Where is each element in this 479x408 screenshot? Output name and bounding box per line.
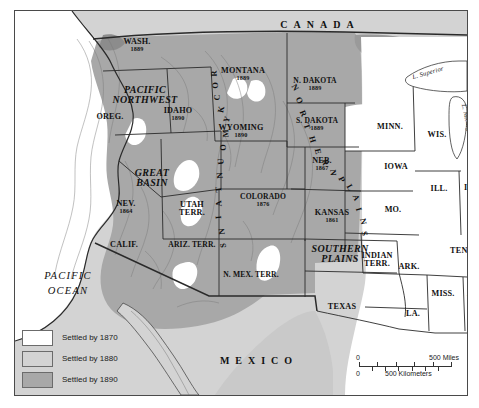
- curved-letter: S: [360, 231, 370, 237]
- label-state-wis: WIS.: [428, 131, 447, 139]
- state-name: MISS.: [431, 289, 454, 298]
- state-name: MO.: [385, 205, 402, 214]
- label-state-la: LA.: [406, 310, 420, 318]
- scale-cap-right: [451, 362, 452, 367]
- curved-letter: U: [216, 158, 226, 165]
- label-state-montana: MONTANA1889: [221, 67, 265, 82]
- label-country-canada: CANADA: [280, 20, 359, 30]
- state-name: ARK.: [398, 262, 419, 271]
- label-state-minn: MINN.: [377, 123, 403, 131]
- scale-tick-miles: [433, 362, 434, 366]
- curved-letter: C: [212, 94, 222, 101]
- state-name-line2: TERR.: [364, 259, 390, 268]
- label-state-ala: ALA.: [467, 290, 468, 298]
- scale-tick-miles: [396, 362, 397, 366]
- legend-item-1890: Settled by 1890: [22, 369, 202, 390]
- state-name: OREG.: [96, 112, 123, 121]
- legend-swatch-1870: [22, 330, 53, 346]
- label-state-ind: IND.: [464, 184, 468, 192]
- state-admission-year: 1889: [123, 46, 150, 52]
- scale-tick-miles: [377, 362, 378, 366]
- label-state-texas: TEXAS: [328, 303, 356, 311]
- state-name: IOWA: [384, 162, 408, 171]
- legend-item-1880: Settled by 1880: [22, 348, 202, 369]
- ocean-line-2: OCEAN: [48, 285, 88, 296]
- curved-letter: N: [217, 228, 227, 235]
- label-state-ark: ARK.: [398, 263, 419, 271]
- state-name: TEXAS: [328, 302, 356, 311]
- legend-swatch-1890: [22, 372, 53, 388]
- label-state-tenn: TENN.: [450, 247, 468, 255]
- label-state-nev: NEV.1864: [116, 200, 135, 215]
- sp-line-2: PLAINS: [321, 253, 358, 264]
- scale-cap-left: [359, 362, 360, 367]
- state-name-line2: TERR.: [179, 208, 205, 217]
- label-region-southern-plains: SOUTHERN PLAINS: [312, 244, 369, 264]
- curved-letter: N: [328, 169, 337, 176]
- curved-letter: R: [209, 70, 218, 76]
- label-state-ariz-terr: ARIZ. TERR.: [168, 241, 215, 249]
- label-state-kansas: KANSAS1861: [315, 209, 349, 224]
- curved-letter: O: [211, 82, 220, 89]
- label-state-wash: WASH.1889: [123, 38, 150, 53]
- legend-swatch-1880: [22, 351, 53, 367]
- scale-zero-km: 0: [356, 370, 360, 377]
- legend-item-1870: Settled by 1870: [22, 327, 202, 348]
- state-admission-year: 1890: [164, 115, 193, 121]
- scale-tick-miles: [414, 362, 415, 366]
- label-state-calif: CALIF.: [110, 241, 138, 249]
- label-state-iowa: IOWA: [384, 163, 408, 171]
- label-state-oreg: OREG.: [96, 113, 123, 121]
- scale-zero-miles: 0: [356, 354, 360, 361]
- scale-miles-label: 500 Miles: [429, 354, 459, 361]
- label-state-idaho: IDAHO1890: [164, 107, 193, 122]
- label-region-great-basin: GREAT BASIN: [135, 168, 169, 188]
- scale-kilometers-label: 500 Kilometers: [385, 370, 432, 377]
- label-state-ill: ILL.: [431, 185, 448, 193]
- state-admission-year: 1876: [240, 201, 286, 207]
- state-admission-year: 1889: [221, 75, 265, 81]
- legend: Settled by 1870 Settled by 1880 Settled …: [22, 327, 202, 390]
- state-name: ALA.: [467, 289, 468, 298]
- label-country-mexico: MEXICO: [220, 356, 298, 366]
- map-frame: CANADA MEXICO PACIFIC OCEAN L. Superior …: [14, 10, 468, 396]
- state-name: TENN.: [450, 246, 468, 255]
- label-pacific-ocean: PACIFIC OCEAN: [44, 268, 91, 298]
- curved-letter: N: [215, 172, 225, 179]
- state-name: CALIF.: [110, 240, 138, 249]
- gb-line-2: BASIN: [136, 177, 168, 188]
- ocean-line-1: PACIFIC: [44, 270, 91, 281]
- curved-letter: M: [221, 129, 230, 137]
- label-state-mo: MO.: [385, 206, 402, 214]
- curved-letter: S: [219, 243, 228, 249]
- state-name: WIS.: [428, 130, 447, 139]
- curved-letter: R: [320, 159, 330, 166]
- curved-letter: T: [214, 186, 224, 193]
- state-name: ILL.: [431, 184, 448, 193]
- state-name: LA.: [406, 309, 420, 318]
- scale-tick-kilometers: [372, 367, 373, 371]
- state-name: ARIZ. TERR.: [168, 240, 215, 249]
- curved-letter: A: [214, 200, 224, 207]
- label-state-n-mex-terr: N. MEX. TERR.: [223, 271, 279, 279]
- state-name: IND.: [464, 183, 468, 192]
- label-state-utah: UTAHTERR.: [179, 201, 205, 218]
- label-state-n-dakota: N. DAKOTA1889: [293, 77, 336, 91]
- legend-label-1890: Settled by 1890: [62, 375, 118, 384]
- state-name: N. MEX. TERR.: [223, 270, 279, 279]
- legend-label-1880: Settled by 1880: [62, 354, 118, 363]
- state-admission-year: 1861: [315, 217, 349, 223]
- curved-letter: O: [218, 144, 228, 151]
- legend-label-1870: Settled by 1870: [62, 333, 118, 342]
- label-state-miss: MISS.: [431, 290, 454, 298]
- label-state-colorado: COLORADO1876: [240, 193, 286, 207]
- state-admission-year: 1864: [116, 208, 135, 214]
- label-region-pacific-northwest: PACIFIC NORTHWEST: [113, 85, 178, 105]
- label-state-indian: INDIANTERR.: [361, 252, 392, 269]
- state-name: MINN.: [377, 122, 403, 131]
- scale-tick-kilometers: [438, 367, 439, 371]
- pnw-line-2: NORTHWEST: [113, 94, 178, 105]
